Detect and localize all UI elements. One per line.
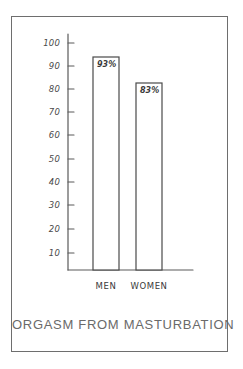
y-tick-label-50: 50 (38, 154, 60, 164)
bar-chart: 100 90 80 70 60 50 40 30 20 10 93% 83% M… (12, 17, 229, 353)
bar-women (136, 83, 162, 270)
figure-frame: 100 90 80 70 60 50 40 30 20 10 93% 83% M… (11, 16, 228, 352)
y-tick-label-30: 30 (38, 200, 60, 210)
y-tick-label-80: 80 (38, 84, 60, 94)
y-tick-label-20: 20 (38, 224, 60, 234)
chart-caption: ORGASM FROM MASTURBATION (12, 317, 229, 332)
y-tick-label-10: 10 (38, 248, 60, 258)
bar-value-men: 93% (97, 60, 116, 69)
y-tick-label-40: 40 (38, 177, 60, 187)
bar-value-women: 83% (140, 86, 159, 95)
y-tick-label-60: 60 (38, 130, 60, 140)
y-tick-label-70: 70 (38, 107, 60, 117)
y-tick-label-100: 100 (38, 38, 60, 48)
y-tick-label-90: 90 (38, 61, 60, 71)
figure: 100 90 80 70 60 50 40 30 20 10 93% 83% M… (0, 0, 243, 369)
x-category-label-men: MEN (86, 281, 126, 291)
x-category-label-women: WOMEN (125, 281, 173, 291)
bar-men (93, 57, 119, 270)
